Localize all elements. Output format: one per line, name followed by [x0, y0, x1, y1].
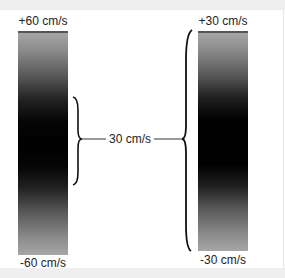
small-brace-icon [73, 97, 82, 185]
connector-label: 30 cm/s [106, 132, 154, 146]
large-brace-icon [182, 30, 192, 251]
